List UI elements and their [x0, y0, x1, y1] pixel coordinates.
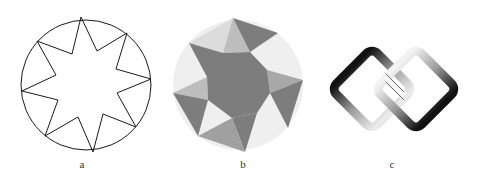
figure-c-interlocked-rings: [331, 48, 457, 130]
figure-b-shaded-star: [173, 18, 303, 152]
figure-b-label: b: [240, 158, 246, 170]
figure-a-star-outline: [21, 17, 151, 152]
figure-a-label: a: [80, 158, 85, 170]
figure-c-label: c: [390, 158, 395, 170]
figure-canvas: [0, 0, 480, 184]
